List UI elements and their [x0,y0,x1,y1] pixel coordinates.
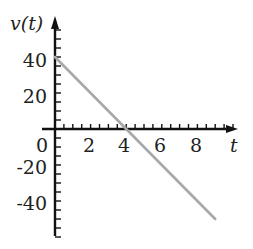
x-tick-label-8: 8 [190,134,202,156]
axis-ticks [55,30,233,237]
x-tick-label-2: 2 [83,134,95,156]
y-tick-label-neg40: -40 [16,192,47,214]
velocity-chart: v(t) t 0 2 4 6 8 40 20 -20 -40 [0,0,253,249]
y-tick-label-neg20: -20 [16,156,47,178]
y-axis-arrow-icon [51,16,59,29]
y-tick-label-40: 40 [23,49,47,71]
x-tick-label-4: 4 [118,134,130,156]
x-axis-arrow-icon [226,125,238,133]
y-axis-label: v(t) [10,12,43,34]
x-tick-label-6: 6 [154,134,166,156]
origin-label: 0 [36,134,48,156]
y-tick-label-20: 20 [23,85,47,107]
x-axis-label: t [230,134,238,156]
